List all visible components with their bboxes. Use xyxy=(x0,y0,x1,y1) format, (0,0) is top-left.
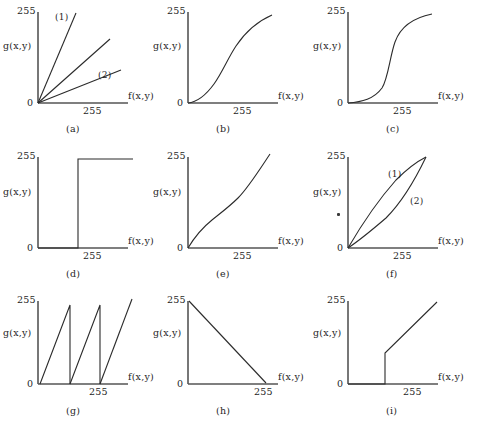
panel-a-annotation-1: (1) xyxy=(55,12,68,22)
panel-g-zero-label: 0 xyxy=(27,378,33,389)
panel-f-zero-label: 0 xyxy=(337,242,343,253)
panel-g-xmax-label: 255 xyxy=(89,386,108,397)
panel-e-xmax-label: 255 xyxy=(233,250,252,261)
panel-a-axes xyxy=(38,12,128,103)
panel-h-axes xyxy=(188,301,278,384)
panel-f-caption: (f) xyxy=(386,268,398,279)
panel-h-ylabel: g(x,y) xyxy=(153,327,181,338)
panel-c-curve xyxy=(348,14,432,103)
panel-f-ymax-label: 255 xyxy=(327,150,346,161)
panel-a-curves xyxy=(38,13,121,103)
panel-a-ylabel: g(x,y) xyxy=(3,40,31,51)
panel-h: 255 g(x,y) 0 255 f(x,y) (h) xyxy=(150,287,300,426)
panel-h-line xyxy=(189,301,266,383)
panel-b-ylabel: g(x,y) xyxy=(153,40,181,51)
panel-b-xmax-label: 255 xyxy=(233,105,252,116)
panel-e-ymax-label: 255 xyxy=(167,150,186,161)
panel-d-xmax-label: 255 xyxy=(83,250,102,261)
panel-i-axes xyxy=(348,301,438,384)
panel-a-annotation-2: (2) xyxy=(98,70,111,80)
panel-b-curve xyxy=(188,15,272,103)
panel-d-step xyxy=(38,159,133,248)
panel-h-xmax-label: 255 xyxy=(254,386,273,397)
panel-c-zero-label: 0 xyxy=(337,97,343,108)
panel-e-caption: (e) xyxy=(216,268,230,279)
panel-i-zero-label: 0 xyxy=(337,378,343,389)
panel-f-xmax-label: 255 xyxy=(393,250,412,261)
panel-f: 255 g(x,y) 0 255 f(x,y) (1) (2) (f) xyxy=(300,142,479,287)
panel-a-zero-label: 0 xyxy=(27,97,33,108)
panel-g-caption: (g) xyxy=(66,405,80,416)
panel-f-ylabel: g(x,y) xyxy=(313,186,341,197)
panel-c: 255 g(x,y) 0 255 f(x,y) (c) xyxy=(300,0,479,142)
panel-g-sawtooth xyxy=(40,299,132,384)
panel-b-zero-label: 0 xyxy=(177,97,183,108)
panel-g: 255 g(x,y) 0 255 f(x,y) (g) xyxy=(0,287,150,426)
panel-i: 255 g(x,y) 0 255 f(x,y) (i) xyxy=(300,287,479,426)
panel-f-annotation-2: (2) xyxy=(410,196,423,206)
panel-d: 255 g(x,y) 0 255 f(x,y) (d) xyxy=(0,142,150,287)
panel-a: 255 g(x,y) 0 255 f(x,y) (1) (2) (a) xyxy=(0,0,150,142)
panel-h-caption: (h) xyxy=(216,405,230,416)
panel-d-ymax-label: 255 xyxy=(17,150,36,161)
panel-i-xlabel: f(x,y) xyxy=(438,371,464,382)
panel-e-ylabel: g(x,y) xyxy=(153,186,181,197)
panel-i-ymax-label: 255 xyxy=(327,294,346,305)
panel-a-caption: (a) xyxy=(66,123,80,134)
panel-a-xmax-label: 255 xyxy=(83,105,102,116)
panel-d-caption: (d) xyxy=(66,268,80,279)
panel-e-curve xyxy=(188,154,270,248)
stray-speck-mark xyxy=(337,213,340,216)
panel-g-ylabel: g(x,y) xyxy=(3,327,31,338)
panel-f-annotation-1: (1) xyxy=(388,169,401,179)
panel-b-axes xyxy=(188,12,278,103)
panel-b: 255 g(x,y) 0 255 f(x,y) (b) xyxy=(150,0,300,142)
panel-d-zero-label: 0 xyxy=(27,242,33,253)
panel-i-xmax-label: 255 xyxy=(403,386,422,397)
panel-h-zero-label: 0 xyxy=(177,378,183,389)
panel-a-ymax-label: 255 xyxy=(17,5,36,16)
figure-panel-grid: 255 g(x,y) 0 255 f(x,y) (1) (2) (a) 255 … xyxy=(0,0,479,426)
panel-e: 255 g(x,y) 0 255 f(x,y) (e) xyxy=(150,142,300,287)
panel-c-caption: (c) xyxy=(386,123,399,134)
panel-c-xmax-label: 255 xyxy=(393,105,412,116)
panel-g-axes xyxy=(38,301,128,384)
panel-b-ymax-label: 255 xyxy=(167,5,186,16)
panel-h-ymax-label: 255 xyxy=(167,294,186,305)
panel-g-ymax-label: 255 xyxy=(17,294,36,305)
panel-f-xlabel: f(x,y) xyxy=(438,235,464,246)
panel-d-ylabel: g(x,y) xyxy=(3,186,31,197)
panel-c-ymax-label: 255 xyxy=(327,5,346,16)
panel-e-zero-label: 0 xyxy=(177,242,183,253)
panel-i-caption: (i) xyxy=(386,405,397,416)
panel-c-axes xyxy=(348,12,438,103)
panel-d-axes xyxy=(38,157,128,248)
panel-c-ylabel: g(x,y) xyxy=(313,40,341,51)
panel-i-ylabel: g(x,y) xyxy=(313,327,341,338)
panel-b-caption: (b) xyxy=(216,123,230,134)
panel-i-curve xyxy=(348,302,437,384)
panel-c-xlabel: f(x,y) xyxy=(438,90,464,101)
